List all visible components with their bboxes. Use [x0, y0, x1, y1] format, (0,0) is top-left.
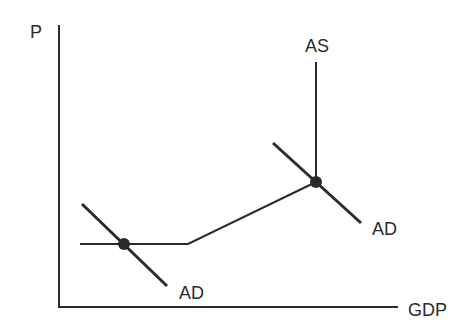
ad-low-label: AD: [179, 283, 204, 303]
x-axis-label: GDP: [408, 300, 447, 320]
equilibrium-point-high: [310, 176, 322, 188]
y-axis-label: P: [30, 22, 42, 42]
as-curve: [80, 62, 316, 244]
ad-high-label: AD: [372, 219, 397, 239]
equilibrium-point-low: [118, 238, 130, 250]
as-ad-diagram: P GDP AS AD AD: [0, 0, 476, 332]
as-label: AS: [305, 36, 329, 56]
